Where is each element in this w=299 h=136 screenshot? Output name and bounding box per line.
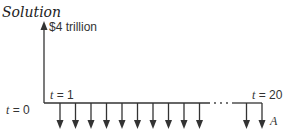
t0-var: t <box>6 103 9 117</box>
payment-label: A <box>270 114 277 129</box>
t0-value: = 0 <box>13 103 30 117</box>
payment-arrow <box>103 103 110 129</box>
inflow-amount-label: $4 trillion <box>49 20 97 34</box>
payment-arrow <box>134 103 141 129</box>
t20-value: = 20 <box>259 88 283 102</box>
payment-arrow <box>72 103 79 129</box>
payment-arrow <box>196 103 203 129</box>
t1-value: = 1 <box>57 88 74 102</box>
t20-label: t = 20 <box>252 88 282 103</box>
t1-label: t = 1 <box>50 88 74 103</box>
inflow-arrow <box>41 21 48 103</box>
payment-arrow <box>259 103 266 129</box>
payment-arrow <box>181 103 188 129</box>
t20-var: t <box>252 88 255 102</box>
t0-label: t = 0 <box>6 103 30 118</box>
payment-var: A <box>270 114 277 128</box>
t1-var: t <box>50 88 53 102</box>
payment-arrow <box>243 103 250 129</box>
payment-arrows <box>57 103 266 129</box>
payment-arrow <box>165 103 172 129</box>
payment-arrow <box>57 103 64 129</box>
ellipsis-dots <box>214 102 228 104</box>
payment-arrow <box>88 103 95 129</box>
cash-flow-diagram <box>0 0 299 136</box>
payment-arrow <box>150 103 157 129</box>
payment-arrow <box>119 103 126 129</box>
